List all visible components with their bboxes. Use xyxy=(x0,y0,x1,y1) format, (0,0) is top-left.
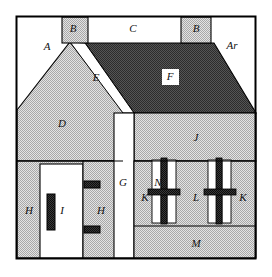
zone-label-B-left: B xyxy=(70,22,77,34)
zone-label-D: D xyxy=(57,117,66,129)
zone-label-F: F xyxy=(166,70,174,82)
zone-label-E: E xyxy=(92,71,100,83)
house-elevation-svg: A B C B Ar E F D J G H I H K N L K M xyxy=(0,0,272,277)
door-leaf xyxy=(47,194,55,230)
architectural-diagram: A B C B Ar E F D J G H I H K N L K M xyxy=(0,0,272,277)
zone-label-C: C xyxy=(129,22,137,34)
zone-label-K-right: K xyxy=(238,191,247,203)
zone-label-Ar: Ar xyxy=(226,39,239,51)
zone-label-A: A xyxy=(43,40,51,52)
zone-label-H-left: H xyxy=(24,204,34,216)
zone-label-G: G xyxy=(119,176,127,188)
zone-label-K-left: K xyxy=(140,191,149,203)
zone-label-N: N xyxy=(153,176,162,188)
window-transom-2 xyxy=(204,189,236,195)
zone-label-L: L xyxy=(192,191,199,203)
zone-label-H-right: H xyxy=(96,204,106,216)
lower-hinge-block xyxy=(84,226,100,233)
zone-label-B-right: B xyxy=(193,22,200,34)
zone-label-M: M xyxy=(190,237,201,249)
window-transom-1 xyxy=(148,189,180,195)
upper-hinge-block xyxy=(84,181,100,188)
